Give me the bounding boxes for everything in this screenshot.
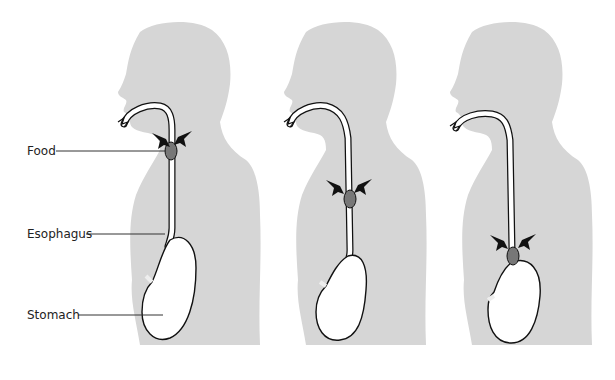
esophagus-label: Esophagus bbox=[27, 227, 92, 241]
panel-1 bbox=[118, 22, 261, 345]
stomach-label: Stomach bbox=[27, 308, 80, 322]
panel-3 bbox=[450, 22, 593, 345]
food-bolus bbox=[507, 247, 519, 265]
food-label: Food bbox=[27, 144, 56, 158]
panel-2 bbox=[284, 22, 427, 345]
peristalsis-diagram bbox=[0, 0, 615, 380]
